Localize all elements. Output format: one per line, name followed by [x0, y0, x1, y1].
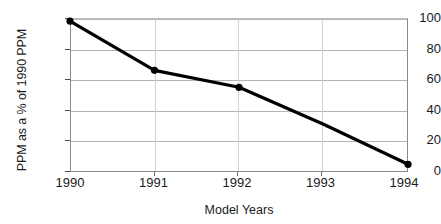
- data-point-1990: [66, 17, 73, 24]
- data-point-1991: [151, 67, 158, 74]
- data-point-1994: [404, 161, 411, 168]
- series-layer: [0, 0, 441, 224]
- data-markers: [66, 17, 411, 167]
- data-point-1992: [235, 84, 242, 91]
- line-chart: PPM as a % of 1990 PPM 100 80 60 40 20 0…: [0, 0, 441, 224]
- data-line-ppm: [70, 21, 408, 164]
